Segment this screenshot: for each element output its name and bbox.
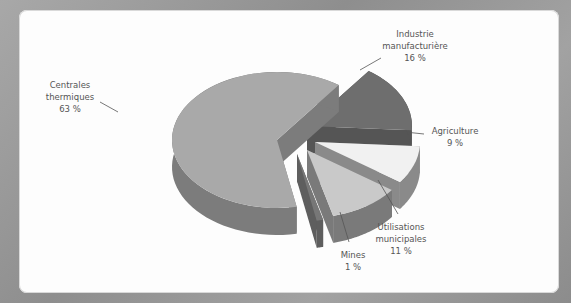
slice-value-label: 63 % xyxy=(59,104,81,114)
slice-label: Utilisations xyxy=(378,222,426,232)
slice-value-label: 11 % xyxy=(390,246,412,256)
slice-label: Industrie xyxy=(396,29,434,39)
leader-line xyxy=(100,102,118,112)
slice-value-label: 16 % xyxy=(404,53,426,63)
slice-side xyxy=(317,220,323,248)
slice-value-label: 9 % xyxy=(447,138,463,148)
slice-label: Mines xyxy=(341,250,366,260)
slice-label: Agriculture xyxy=(432,126,479,136)
slice-label: thermiques xyxy=(46,92,95,102)
slice-label: municipales xyxy=(375,234,427,244)
leader-line xyxy=(360,58,381,70)
slice-value-label: 1 % xyxy=(345,262,361,272)
slice-label: manufacturière xyxy=(382,41,447,51)
pie-chart: Centralesthermiques63 %Industriemanufact… xyxy=(0,0,571,303)
slice-label: Centrales xyxy=(50,80,91,90)
